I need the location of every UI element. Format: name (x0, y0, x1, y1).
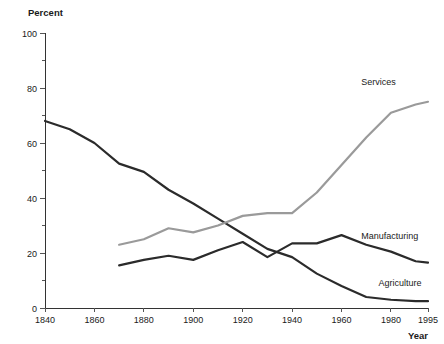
y-tick-label: 40 (27, 194, 37, 204)
x-axis-tick-labels: 184018601880190019201940196019801995 (35, 315, 438, 325)
x-tick-label: 1880 (134, 315, 154, 325)
line-chart-svg: 020406080100 184018601880190019201940196… (0, 0, 444, 344)
x-tick-label: 1940 (282, 315, 302, 325)
data-series-group (45, 102, 428, 301)
series-label-services: Services (361, 77, 396, 87)
x-tick-label: 1960 (332, 315, 352, 325)
y-tick-label: 20 (27, 249, 37, 259)
x-axis-title: Year (408, 330, 428, 341)
chart-container: 020406080100 184018601880190019201940196… (0, 0, 444, 344)
y-axis-ticks (40, 33, 45, 308)
series-labels-group: AgricultureManufacturingServices (361, 77, 421, 288)
y-tick-label: 60 (27, 139, 37, 149)
x-tick-label: 1860 (84, 315, 104, 325)
y-tick-label: 0 (32, 304, 37, 314)
y-tick-label: 80 (27, 84, 37, 94)
y-axis-title: Percent (28, 7, 64, 18)
y-tick-label: 100 (22, 29, 37, 39)
x-axis-ticks (45, 308, 428, 312)
series-label-agriculture: Agriculture (379, 278, 422, 288)
series-line-agriculture (45, 121, 428, 301)
x-tick-label: 1980 (381, 315, 401, 325)
plot-axes (45, 33, 428, 308)
x-tick-label: 1840 (35, 315, 55, 325)
series-label-manufacturing: Manufacturing (361, 231, 418, 241)
series-line-services (119, 102, 428, 245)
x-tick-label: 1995 (418, 315, 438, 325)
x-tick-label: 1900 (183, 315, 203, 325)
y-axis-tick-labels: 020406080100 (22, 29, 37, 314)
x-tick-label: 1920 (233, 315, 253, 325)
